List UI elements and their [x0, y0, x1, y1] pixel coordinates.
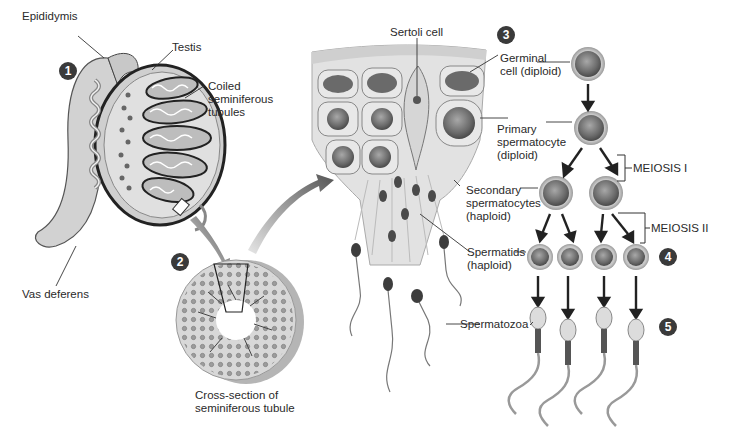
label-sertoli-cell: Sertoli cell: [390, 26, 443, 39]
meiosis-flowchart: [509, 47, 650, 426]
label-epididymis: Epididymis: [22, 10, 78, 23]
label-spermatozoa: Spermatozoa: [460, 318, 528, 331]
diagram-artwork: [0, 0, 731, 429]
step-badge-2: 2: [171, 253, 189, 271]
label-secondary-spermatocytes: Secondary spermatocytes (haploid): [466, 184, 541, 223]
label-germinal-cell: Germinal cell (diploid): [500, 52, 561, 78]
label-meiosis-1: MEIOSIS I: [633, 162, 687, 175]
label-cross-section: Cross-section of seminiferous tubule: [195, 389, 295, 415]
tubule-cross-section: [176, 260, 304, 384]
label-meiosis-2: MEIOSIS II: [651, 222, 709, 235]
label-coiled-seminiferous-tubules: Coiled seminiferous tubules: [208, 80, 273, 119]
step-badge-4: 4: [659, 248, 677, 266]
step-badge-5: 5: [659, 318, 677, 336]
spermatogenesis-figure: Epididymis Testis Coiled seminiferous tu…: [0, 0, 731, 429]
spermatozoa-row: [509, 307, 644, 426]
label-spermatids: Spermatids (haploid): [467, 246, 525, 272]
step-badge-1: 1: [59, 62, 77, 80]
label-primary-spermatocyte: Primary spermatocyte (diploid): [497, 123, 566, 162]
step-badge-3: 3: [497, 26, 515, 44]
tubule-wall-detail: [312, 45, 486, 392]
label-vas-deferens: Vas deferens: [22, 288, 89, 301]
label-testis: Testis: [172, 41, 201, 54]
arrow-to-tubule-wall: [248, 174, 334, 254]
